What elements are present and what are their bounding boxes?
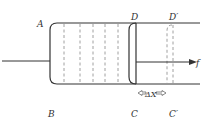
- label-c-prime: C′: [169, 109, 178, 119]
- label-d-prime: D′: [168, 12, 178, 22]
- displaced-piston: [167, 25, 173, 83]
- label-d: D: [130, 12, 138, 22]
- label-b: B: [47, 109, 55, 119]
- piston-diagram: A B D D′ C C′ f ΔX: [0, 0, 216, 122]
- piston: [129, 23, 136, 84]
- label-c: C: [131, 109, 138, 119]
- label-a: A: [36, 19, 44, 29]
- internal-dashed-lines: [64, 24, 118, 83]
- label-force: f: [195, 58, 201, 68]
- label-delta-x: ΔX: [144, 90, 157, 99]
